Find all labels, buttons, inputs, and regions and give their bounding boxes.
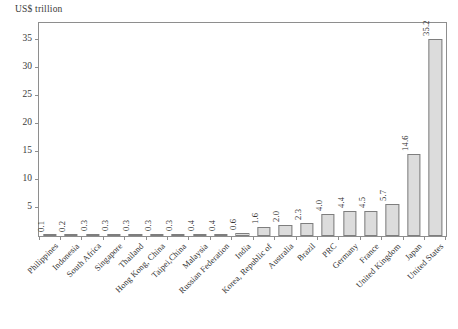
bar[interactable] <box>322 214 335 236</box>
bar-value-label: 14.6 <box>399 135 409 151</box>
x-axis-tick-mark <box>403 236 404 240</box>
x-axis-category-label: Indonesia <box>50 265 57 272</box>
x-axis-category-label: South Africa <box>64 272 71 279</box>
y-tick-label: 15 <box>23 145 33 155</box>
bar-slot: 0.4 <box>189 23 210 236</box>
bar-value-label: 0.4 <box>185 220 195 231</box>
x-axis-tick-mark <box>445 236 446 240</box>
plot-area: 5101520253035 0.10.20.30.30.30.30.30.40.… <box>39 23 446 236</box>
bar-slot: 1.6 <box>253 23 274 236</box>
bar-slot: 0.4 <box>210 23 231 236</box>
x-axis-category-label: Japan <box>403 255 410 262</box>
bar-slot: 2.0 <box>275 23 296 236</box>
bar-slot: 35.2 <box>425 23 446 236</box>
bar[interactable] <box>172 234 185 236</box>
bar-slot: 4.5 <box>360 23 381 236</box>
x-axis-category-label: PRC <box>320 252 327 259</box>
bar-slot: 0.2 <box>60 23 81 236</box>
bar-value-label: 5.7 <box>378 190 388 201</box>
x-axis-category-label: United States <box>405 274 412 281</box>
bar-slot: 5.7 <box>382 23 403 236</box>
bar-value-label: 0.3 <box>142 220 152 231</box>
x-axis-tick-mark <box>188 236 189 240</box>
bar[interactable] <box>429 39 442 236</box>
x-axis-tick-mark <box>60 236 61 240</box>
x-axis-tick-mark <box>167 236 168 240</box>
x-axis-tick-mark <box>124 236 125 240</box>
x-axis-tick-mark <box>231 236 232 240</box>
bar-slot: 0.3 <box>125 23 146 236</box>
bar-slot: 0.3 <box>168 23 189 236</box>
bar[interactable] <box>64 234 77 236</box>
bar[interactable] <box>86 234 99 236</box>
bar[interactable] <box>364 211 377 236</box>
bar-slot: 0.3 <box>103 23 124 236</box>
bar-value-label: 0.3 <box>99 220 109 231</box>
x-axis-tick-mark <box>360 236 361 240</box>
x-axis-category-label: Philippines <box>25 269 32 276</box>
x-axis-tick-mark <box>296 236 297 240</box>
bar-slot: 0.6 <box>232 23 253 236</box>
x-axis-tick-mark <box>381 236 382 240</box>
x-axis-tick-mark <box>210 236 211 240</box>
bar-value-label: 35.2 <box>421 20 431 36</box>
x-axis-category-label: Australia <box>266 264 273 271</box>
x-axis-category-label: Thailand <box>116 263 123 270</box>
bar-value-label: 4.0 <box>314 199 324 210</box>
bar[interactable] <box>343 211 356 236</box>
x-axis-category-label: Singapore <box>92 266 99 273</box>
y-axis-unit-label: US$ trillion <box>15 4 63 14</box>
bar-value-label: 0.6 <box>228 218 238 229</box>
bar-value-label: 0.3 <box>164 220 174 231</box>
bar-value-label: 0.3 <box>78 220 88 231</box>
x-axis-tick-mark <box>39 236 40 240</box>
x-axis-category-label: Korea, Republic of <box>220 288 227 295</box>
bar[interactable] <box>386 204 399 236</box>
x-axis-tick-mark <box>338 236 339 240</box>
bar[interactable] <box>150 234 163 236</box>
bar-value-label: 2.3 <box>292 209 302 220</box>
bar-slot: 0.3 <box>146 23 167 236</box>
x-axis-tick-mark <box>424 236 425 240</box>
x-axis-category-label: Germany <box>330 264 337 271</box>
y-tick-label: 30 <box>23 61 33 71</box>
x-axis-tick-mark <box>103 236 104 240</box>
y-tick-label: 10 <box>23 173 33 183</box>
bar[interactable] <box>107 234 120 236</box>
x-axis-category-label: France <box>357 258 364 265</box>
bar-value-label: 4.5 <box>357 197 367 208</box>
x-axis-category-label: Russian Federation <box>177 288 184 295</box>
bar[interactable] <box>129 234 142 236</box>
x-axis-category-label: Hong Kong, China <box>113 288 120 295</box>
bar-value-label: 4.4 <box>335 197 345 208</box>
bar-value-label: 2.0 <box>271 211 281 222</box>
bar[interactable] <box>214 234 227 236</box>
x-axis-tick-mark <box>274 236 275 240</box>
x-axis-category-label: India <box>233 254 240 261</box>
x-axis-category-label: Malaysia <box>180 264 187 271</box>
x-axis-tick-mark <box>81 236 82 240</box>
x-axis-tick-mark <box>317 236 318 240</box>
plot-frame: 5101520253035 0.10.20.30.30.30.30.30.40.… <box>38 22 447 237</box>
bar-slot: 0.1 <box>39 23 60 236</box>
bars-layer: 0.10.20.30.30.30.30.30.40.40.61.62.02.34… <box>39 23 446 236</box>
bar[interactable] <box>193 234 206 236</box>
bar[interactable] <box>407 154 420 236</box>
y-tick-label: 35 <box>23 33 33 43</box>
bar[interactable] <box>257 227 270 236</box>
x-axis-category-labels: PhilippinesIndonesiaSouth AfricaSingapor… <box>38 241 447 329</box>
bar-value-label: 0.2 <box>57 220 67 231</box>
x-axis-tick-mark <box>146 236 147 240</box>
bar[interactable] <box>43 234 56 236</box>
x-axis-tick-mark <box>253 236 254 240</box>
x-axis-category-label: Taipei,China <box>149 273 156 280</box>
x-axis-category-label: Brazil <box>295 256 302 263</box>
bar[interactable] <box>279 225 292 236</box>
y-tick-label: 5 <box>27 201 32 211</box>
bar-value-label: 0.4 <box>207 220 217 231</box>
y-tick-label: 25 <box>23 89 33 99</box>
bar[interactable] <box>236 233 249 236</box>
bar[interactable] <box>300 223 313 236</box>
bar-slot: 14.6 <box>403 23 424 236</box>
bar-slot: 0.3 <box>82 23 103 236</box>
